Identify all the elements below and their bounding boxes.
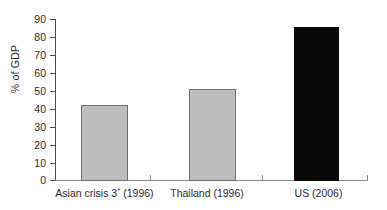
y-axis-title: % of GDP	[8, 26, 22, 112]
y-tick-mark-40	[50, 109, 55, 110]
bar-asian-crisis-3	[81, 105, 128, 181]
y-tick-mark-80	[50, 37, 55, 38]
y-tick-label-20: 20	[24, 140, 46, 150]
y-tick-label-90: 90	[24, 14, 46, 24]
x-category-label-asian-crisis-3-year: (1996)	[120, 187, 153, 199]
y-axis-line	[55, 19, 56, 181]
bar-thailand	[189, 89, 236, 181]
y-tick-mark-0	[50, 180, 55, 181]
y-tick-mark-70	[50, 55, 55, 56]
y-tick-label-60: 60	[24, 68, 46, 78]
x-category-label-us: US (2006)	[266, 187, 371, 200]
y-tick-mark-60	[50, 73, 55, 74]
y-tick-label-70: 70	[24, 50, 46, 60]
y-tick-label-0: 0	[24, 175, 46, 185]
bar-us	[294, 27, 339, 181]
x-tick-mark-1	[150, 175, 151, 181]
y-tick-mark-30	[50, 127, 55, 128]
y-tick-mark-20	[50, 145, 55, 146]
y-tick-label-30: 30	[24, 122, 46, 132]
x-category-label-thailand: Thailand (1996)	[152, 187, 262, 200]
y-tick-mark-50	[50, 91, 55, 92]
x-tick-mark-2	[262, 175, 263, 181]
y-tick-label-80: 80	[24, 32, 46, 42]
y-tick-label-40: 40	[24, 104, 46, 114]
y-tick-mark-10	[50, 163, 55, 164]
bar-chart-figure: % of GDP 90 80 70 60 50 40 30 20 10 0 As…	[0, 0, 387, 210]
y-tick-mark-90	[50, 19, 55, 20]
x-category-label-asian-crisis-3-text: Asian crisis 3	[55, 187, 117, 199]
y-tick-label-50: 50	[24, 86, 46, 96]
x-tick-mark-3	[367, 175, 368, 181]
y-tick-label-10: 10	[24, 158, 46, 168]
